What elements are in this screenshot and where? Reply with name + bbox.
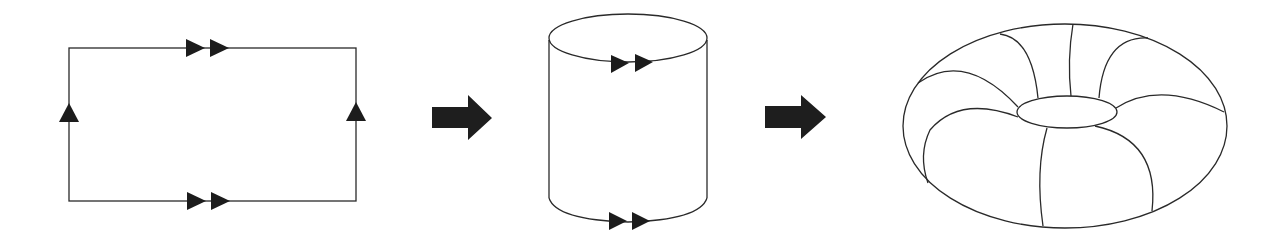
torus-stage	[903, 24, 1227, 228]
cylinder-bottom-double-arrow-icon	[609, 212, 650, 230]
right-edge-arrow-up-icon	[346, 102, 366, 121]
torus-outer-ellipse	[903, 24, 1227, 228]
cylinder-top-double-arrow-icon	[611, 54, 653, 73]
rectangle-stage	[59, 39, 366, 210]
cylinder-top-ellipse	[549, 14, 707, 62]
transition-arrow-1-icon	[432, 95, 492, 140]
square-outline	[69, 48, 356, 201]
cylinder-stage	[549, 14, 707, 230]
torus-inner-hole	[1017, 96, 1117, 128]
torus-construction-diagram	[0, 0, 1278, 242]
left-edge-arrow-up-icon	[59, 103, 79, 122]
torus-meridian-curves	[918, 24, 1224, 226]
transition-arrow-2-icon	[765, 95, 826, 139]
cylinder-bottom-arc	[549, 198, 707, 222]
